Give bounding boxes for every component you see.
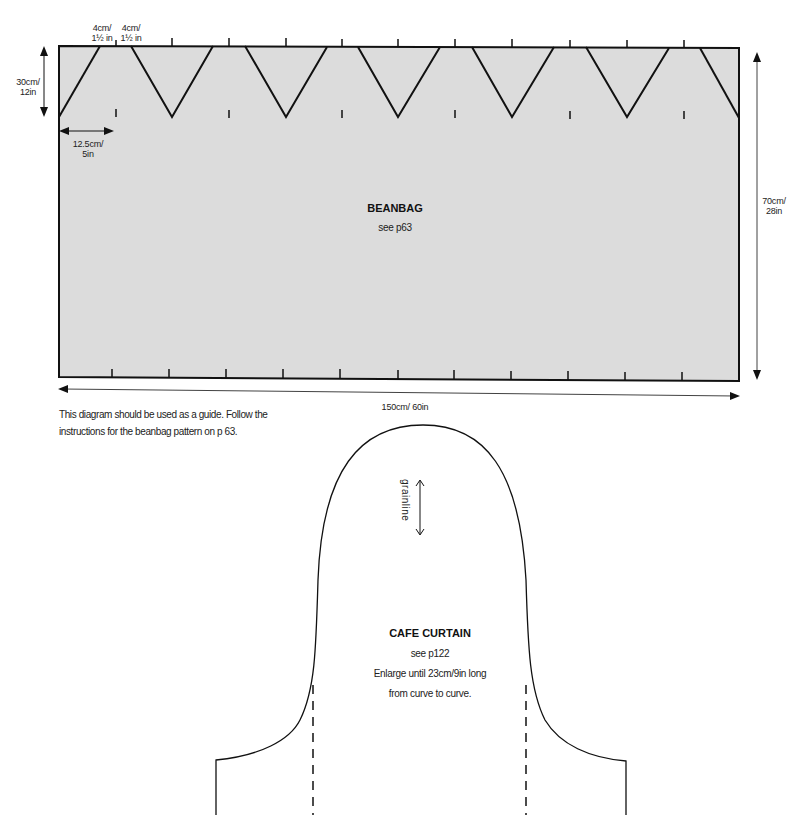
total-height-label: 70cm/ 28in [757, 196, 791, 216]
point-width-label-1: 4cm/ 1½ in [88, 23, 116, 43]
cafe-curtain-outline [216, 425, 626, 815]
beanbag-subtitle: see p63 [330, 222, 460, 233]
spacing-label: 12.5cm/ 5in [68, 139, 108, 159]
cafe-curtain-title: CAFE CURTAIN [340, 627, 520, 639]
total-width-label: 150cm/ 60in [370, 402, 440, 412]
beanbag-note: This diagram should be used as a guide. … [59, 406, 379, 440]
beanbag-title: BEANBAG [330, 202, 460, 214]
point-width-label-2: 4cm/ 1½ in [117, 23, 145, 43]
height-top-label: 30cm/ 12in [11, 77, 45, 97]
grainline-arrow [416, 480, 424, 535]
grainline-label: grainline [400, 479, 411, 521]
cafe-curtain-instruction-2: from curve to curve. [330, 688, 530, 699]
width-arrow [58, 385, 740, 400]
cafe-curtain-subtitle: see p122 [340, 648, 520, 659]
cafe-curtain-instruction-1: Enlarge until 23cm/9in long [330, 668, 530, 679]
height-arrow-right [753, 52, 761, 380]
